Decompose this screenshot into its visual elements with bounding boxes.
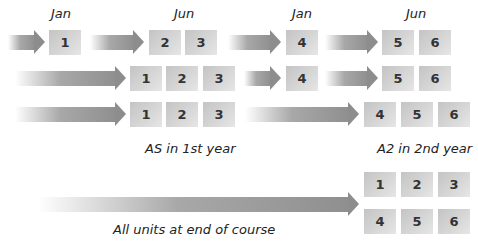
arrow-icon (244, 66, 281, 91)
arrow-icon (325, 30, 378, 55)
unit-box: 5 (401, 209, 433, 234)
header-jun-year1: Jun (174, 6, 194, 21)
header-jan-year1: Jan (51, 6, 71, 21)
unit-box: 3 (203, 102, 235, 127)
unit-box: 5 (401, 102, 433, 127)
unit-box: 6 (438, 102, 470, 127)
header-jan-year2: Jan (292, 6, 312, 21)
label-all-units-end: All units at end of course (113, 222, 275, 237)
unit-box: 3 (185, 30, 217, 55)
unit-box: 1 (49, 30, 81, 55)
arrow-icon (245, 102, 359, 127)
arrow-icon (38, 192, 359, 217)
unit-box: 5 (382, 66, 414, 91)
unit-box: 1 (364, 172, 396, 197)
unit-box: 6 (438, 209, 470, 234)
unit-box: 4 (364, 209, 396, 234)
unit-box: 2 (166, 102, 198, 127)
unit-box: 5 (382, 30, 414, 55)
unit-box: 2 (166, 66, 198, 91)
unit-box: 4 (286, 30, 318, 55)
unit-box: 3 (203, 66, 235, 91)
arrow-icon (15, 102, 126, 127)
arrow-icon (228, 30, 281, 55)
arrow-icon (325, 66, 378, 91)
unit-box: 6 (419, 66, 451, 91)
unit-box: 4 (286, 66, 318, 91)
unit-box: 6 (419, 30, 451, 55)
label-a2-second-year: A2 in 2nd year (377, 141, 472, 156)
arrow-icon (8, 30, 45, 55)
unit-box: 1 (130, 66, 162, 91)
unit-box: 3 (438, 172, 470, 197)
label-as-first-year: AS in 1st year (145, 141, 236, 156)
unit-box: 2 (401, 172, 433, 197)
unit-box: 1 (130, 102, 162, 127)
header-jun-year2: Jun (406, 6, 426, 21)
arrow-icon (90, 30, 144, 55)
unit-box: 2 (149, 30, 181, 55)
unit-box: 4 (364, 102, 396, 127)
arrow-icon (15, 66, 126, 91)
